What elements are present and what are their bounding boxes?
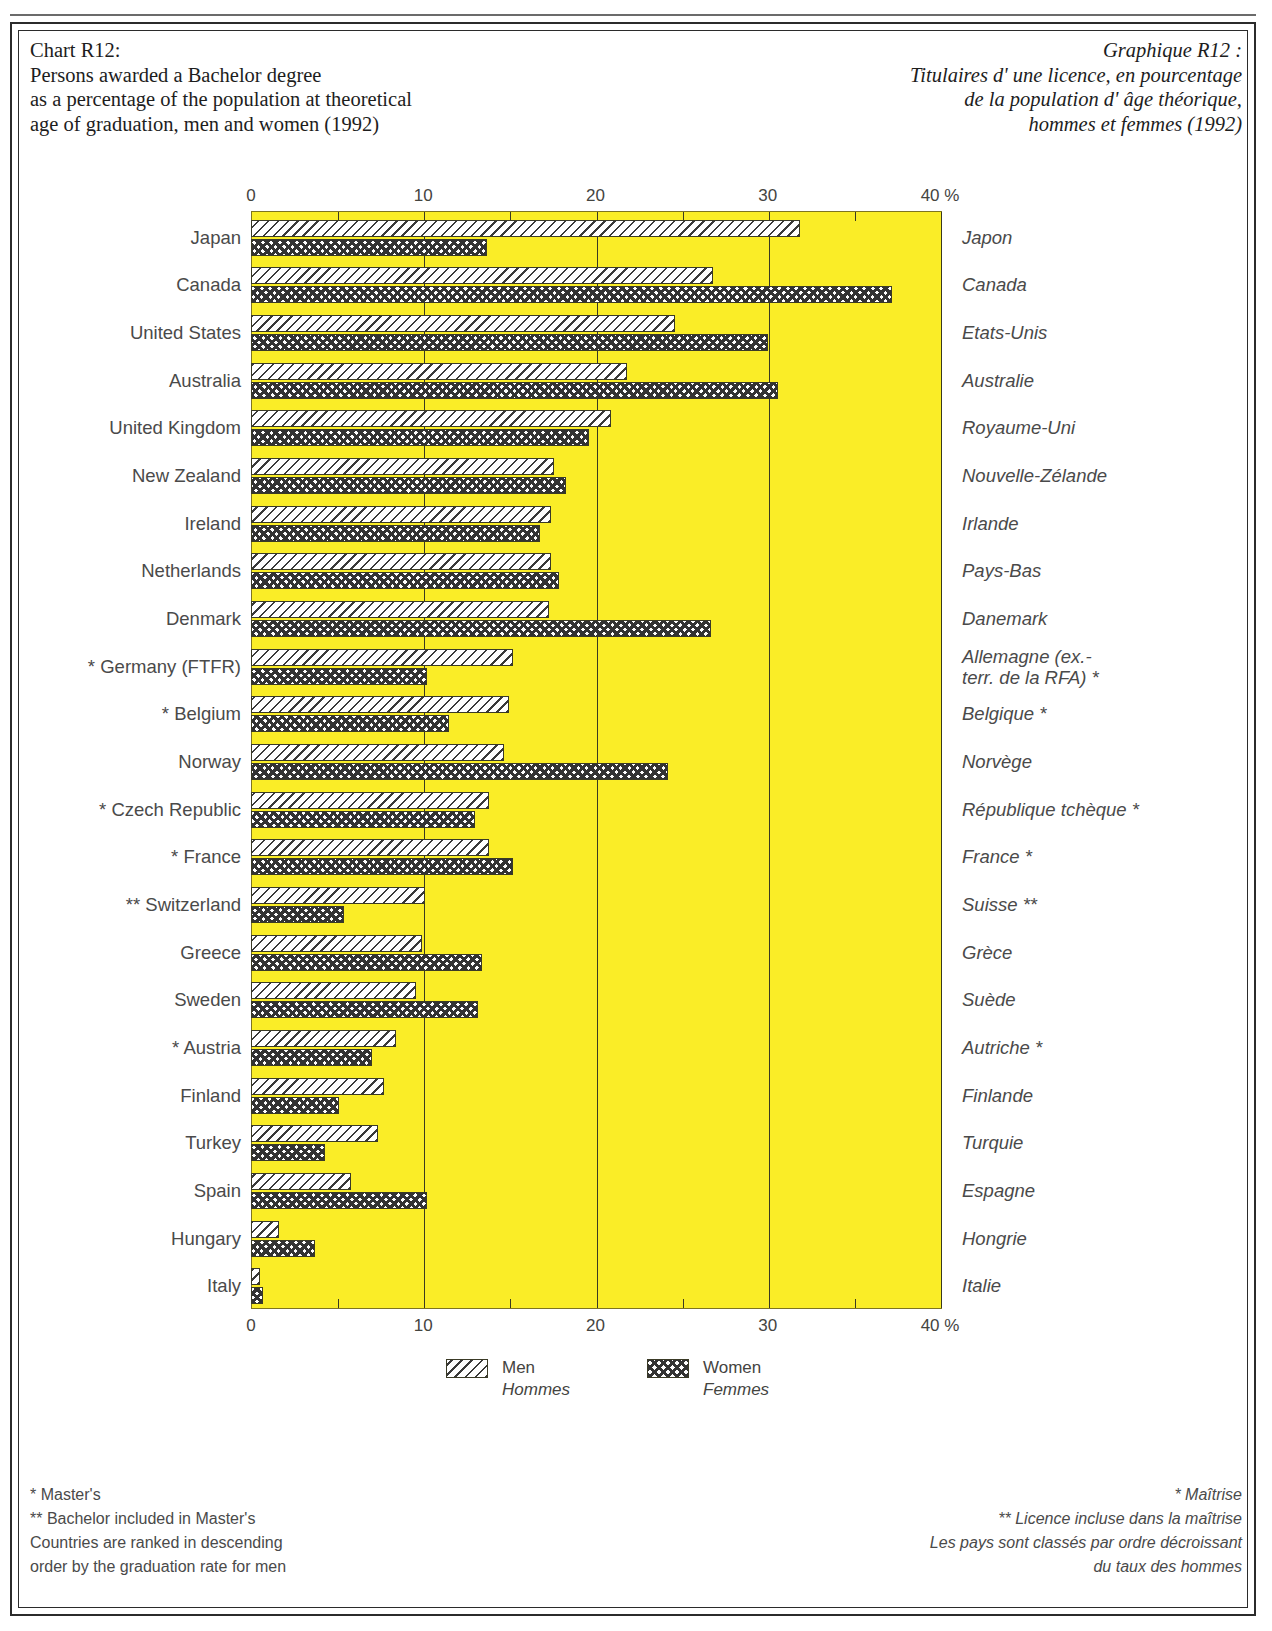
category-label-fr-line: Etats-Unis: [962, 322, 1047, 343]
category-label-fr-22: Italie: [962, 1275, 1001, 1296]
category-label-fr-10: Belgique *: [962, 703, 1046, 724]
category-label-fr-line: Finlande: [962, 1085, 1033, 1106]
category-label-fr-line: Espagne: [962, 1180, 1035, 1201]
title-en-line-1: Persons awarded a Bachelor degree: [30, 63, 412, 88]
category-label-fr-21: Hongrie: [962, 1228, 1027, 1249]
title-en-line-0: Chart R12:: [30, 38, 412, 63]
chart-legend: Men Hommes Women Femmes: [446, 1357, 826, 1403]
category-label-fr-line: Italie: [962, 1275, 1001, 1296]
category-label-fr-line: Allemagne (ex.-: [962, 646, 1099, 667]
category-label-en-3: Australia: [169, 370, 241, 391]
category-label-fr-line: Australie: [962, 370, 1034, 391]
category-label-fr-0: Japon: [962, 227, 1012, 248]
category-label-fr-line: Canada: [962, 274, 1027, 295]
category-label-fr-18: Finlande: [962, 1085, 1033, 1106]
category-label-en-16: Sweden: [174, 989, 241, 1010]
category-label-fr-4: Royaume-Uni: [962, 417, 1075, 438]
category-label-fr-line: Nouvelle-Zélande: [962, 465, 1107, 486]
chart-title-english: Chart R12: Persons awarded a Bachelor de…: [30, 38, 412, 136]
title-fr-line-1: Titulaires d' une licence, en pourcentag…: [910, 63, 1242, 88]
legend-label-women: Women Femmes: [703, 1357, 769, 1401]
category-label-en-18: Finland: [180, 1085, 241, 1106]
legend-swatch-men-icon: [446, 1359, 488, 1378]
category-label-fr-5: Nouvelle-Zélande: [962, 465, 1107, 486]
category-label-en-21: Hungary: [171, 1228, 241, 1249]
category-label-en-4: United Kingdom: [109, 417, 241, 438]
footnote-fr-1: ** Licence incluse dans la maîtrise: [930, 1507, 1242, 1531]
category-label-fr-line: Belgique *: [962, 703, 1046, 724]
category-label-fr-3: Australie: [962, 370, 1034, 391]
category-label-fr-line: Hongrie: [962, 1228, 1027, 1249]
category-label-fr-13: France *: [962, 846, 1032, 867]
legend-label-women-fr: Femmes: [703, 1379, 769, 1401]
category-label-fr-2: Etats-Unis: [962, 322, 1047, 343]
category-label-en-7: Netherlands: [141, 560, 241, 581]
legend-label-men-fr: Hommes: [502, 1379, 570, 1401]
category-label-fr-line: Irlande: [962, 513, 1019, 534]
page-top-rule: [10, 14, 1256, 16]
category-label-fr-8: Danemark: [962, 608, 1047, 629]
footnote-fr-3: du taux des hommes: [930, 1555, 1242, 1579]
category-label-fr-line: Turquie: [962, 1132, 1023, 1153]
category-label-en-10: * Belgium: [162, 703, 241, 724]
category-label-fr-line: Royaume-Uni: [962, 417, 1075, 438]
footnote-en-3: order by the graduation rate for men: [30, 1555, 286, 1579]
legend-swatch-women-icon: [647, 1359, 689, 1378]
category-label-en-1: Canada: [176, 274, 241, 295]
category-label-fr-14: Suisse **: [962, 894, 1037, 915]
category-label-en-20: Spain: [194, 1180, 241, 1201]
category-label-fr-line: terr. de la RFA) *: [962, 667, 1099, 688]
title-en-line-2: as a percentage of the population at the…: [30, 87, 412, 112]
title-fr-line-3: hommes et femmes (1992): [910, 112, 1242, 137]
category-label-en-9: * Germany (FTFR): [88, 656, 241, 677]
category-label-en-14: ** Switzerland: [126, 894, 241, 915]
category-label-fr-15: Grèce: [962, 942, 1012, 963]
category-label-en-2: United States: [130, 322, 241, 343]
footnote-fr-0: * Maîtrise: [930, 1483, 1242, 1507]
title-fr-line-0: Graphique R12 :: [910, 38, 1242, 63]
category-label-fr-line: Pays-Bas: [962, 560, 1041, 581]
footnote-en-1: ** Bachelor included in Master's: [30, 1507, 286, 1531]
category-label-fr-19: Turquie: [962, 1132, 1023, 1153]
footnote-en-0: * Master's: [30, 1483, 286, 1507]
category-label-fr-line: Grèce: [962, 942, 1012, 963]
category-label-fr-17: Autriche *: [962, 1037, 1042, 1058]
category-label-fr-20: Espagne: [962, 1180, 1035, 1201]
category-label-fr-7: Pays-Bas: [962, 560, 1041, 581]
category-label-fr-6: Irlande: [962, 513, 1019, 534]
category-label-en-8: Denmark: [166, 608, 241, 629]
category-label-en-22: Italy: [207, 1275, 241, 1296]
category-label-fr-line: République tchèque *: [962, 799, 1139, 820]
legend-label-men: Men Hommes: [502, 1357, 570, 1401]
category-label-fr-line: Danemark: [962, 608, 1047, 629]
footnotes-french: * Maîtrise ** Licence incluse dans la ma…: [930, 1483, 1242, 1579]
title-fr-line-2: de la population d' âge théorique,: [910, 87, 1242, 112]
footnote-fr-2: Les pays sont classés par ordre décroiss…: [930, 1531, 1242, 1555]
category-label-en-17: * Austria: [172, 1037, 241, 1058]
category-label-en-5: New Zealand: [132, 465, 241, 486]
legend-label-women-en: Women: [703, 1358, 761, 1377]
category-label-fr-1: Canada: [962, 274, 1027, 295]
category-label-en-19: Turkey: [185, 1132, 241, 1153]
category-label-en-13: * France: [171, 846, 241, 867]
category-label-fr-line: Suède: [962, 989, 1016, 1010]
category-label-fr-line: Suisse **: [962, 894, 1037, 915]
category-label-fr-line: Japon: [962, 227, 1012, 248]
category-label-fr-11: Norvège: [962, 751, 1032, 772]
category-label-fr-line: France *: [962, 846, 1032, 867]
category-label-fr-line: Autriche *: [962, 1037, 1042, 1058]
category-label-fr-line: Norvège: [962, 751, 1032, 772]
category-label-fr-9: Allemagne (ex.-terr. de la RFA) *: [962, 646, 1099, 688]
category-label-en-15: Greece: [180, 942, 241, 963]
category-label-fr-12: République tchèque *: [962, 799, 1139, 820]
legend-label-men-en: Men: [502, 1358, 535, 1377]
chart-title-french: Graphique R12 : Titulaires d' une licenc…: [910, 38, 1242, 136]
footnotes-english: * Master's ** Bachelor included in Maste…: [30, 1483, 286, 1579]
category-label-en-11: Norway: [178, 751, 241, 772]
category-label-fr-16: Suède: [962, 989, 1016, 1010]
category-label-en-0: Japan: [191, 227, 241, 248]
category-label-en-12: * Czech Republic: [99, 799, 241, 820]
category-label-en-6: Ireland: [184, 513, 241, 534]
title-en-line-3: age of graduation, men and women (1992): [30, 112, 412, 137]
footnote-en-2: Countries are ranked in descending: [30, 1531, 286, 1555]
